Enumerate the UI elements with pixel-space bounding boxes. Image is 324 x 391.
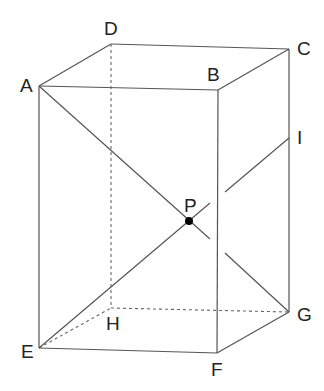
edge-EF xyxy=(39,348,217,353)
segment-EI-part2 xyxy=(225,138,289,192)
hidden-edge-HG xyxy=(111,308,289,312)
cuboid-diagram: A B C D E F G H I P xyxy=(0,0,324,391)
edge-DA xyxy=(39,44,111,86)
label-E: E xyxy=(21,341,34,362)
edge-AB xyxy=(39,86,218,90)
label-A: A xyxy=(20,75,33,96)
edge-FG xyxy=(217,312,289,353)
edge-BF xyxy=(217,90,218,353)
point-P-marker xyxy=(185,217,193,225)
segment-EI-part1 xyxy=(39,203,210,348)
label-C: C xyxy=(297,38,311,59)
segment-AG-part2 xyxy=(225,253,289,312)
label-B: B xyxy=(207,64,220,85)
label-P: P xyxy=(184,195,197,216)
edge-BC xyxy=(218,49,289,90)
label-D: D xyxy=(104,18,118,39)
label-G: G xyxy=(297,304,312,325)
label-I: I xyxy=(297,127,302,148)
edge-CD xyxy=(111,44,289,49)
segment-AG-part1 xyxy=(39,86,210,239)
hidden-edge-EH xyxy=(39,308,111,348)
label-F: F xyxy=(211,359,223,380)
label-H: H xyxy=(106,313,120,334)
